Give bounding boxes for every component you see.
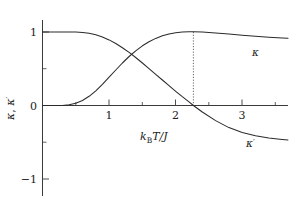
svg-text:κ′: κ′: [245, 137, 255, 149]
y-tick-label-0: 0: [30, 100, 37, 113]
x-tick-label-1: 1: [106, 109, 113, 122]
kappa-prime-curve-label-group: κ′: [245, 137, 255, 149]
x-tick-label-2: 2: [172, 109, 179, 122]
figure-container: 1 2 3 1 0 −1 kBT/J κ, κ′ κ: [0, 0, 292, 205]
kappa-prime-curve-label: κ: [245, 137, 253, 149]
x-axis-ticks: [76, 100, 275, 106]
y-axis-label-prime: ′: [4, 97, 13, 99]
y-tick-label-1: 1: [30, 26, 37, 39]
kappa-plot-svg: 1 2 3 1 0 −1 kBT/J κ, κ′ κ: [0, 0, 292, 205]
x-tick-label-3: 3: [239, 109, 246, 122]
y-tick-labels: 1 0 −1: [21, 26, 37, 186]
svg-text:κ, κ′: κ, κ′: [4, 97, 17, 121]
y-tick-label-minus1: −1: [21, 173, 37, 186]
kappa-prime-curve: [43, 32, 289, 106]
svg-text:kBT/J: kBT/J: [140, 130, 168, 145]
y-axis-label-comma: ,: [4, 106, 17, 113]
kappa-prime-curve-label-mark: ′: [253, 137, 255, 146]
x-tick-labels: 1 2 3: [106, 109, 246, 122]
x-axis-label-tj: T/J: [152, 130, 168, 143]
y-axis-label-group: κ, κ′: [4, 97, 17, 121]
kappa-curve-label: κ: [251, 46, 259, 58]
x-axis-label-group: kBT/J: [140, 130, 168, 145]
